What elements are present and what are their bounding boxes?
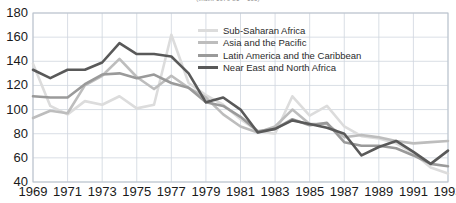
x-tick-1985: 1985 xyxy=(293,185,327,198)
x-tick-1981: 1981 xyxy=(224,185,258,198)
y-tick-60: 60 xyxy=(0,151,28,164)
legend-item[interactable]: Sub-Saharan Africa xyxy=(198,24,361,37)
legend-item[interactable]: Near East and North Africa xyxy=(198,62,361,75)
y-tick-160: 160 xyxy=(0,30,28,43)
x-tick-1975: 1975 xyxy=(120,185,154,198)
legend-swatch-icon xyxy=(198,41,218,44)
legend-label: Near East and North Africa xyxy=(223,63,336,73)
x-tick-1971: 1971 xyxy=(51,185,85,198)
x-tick-1993: 1993 xyxy=(431,185,456,198)
legend-label: Sub-Saharan Africa xyxy=(223,26,305,36)
x-tick-1977: 1977 xyxy=(154,185,188,198)
y-tick-140: 140 xyxy=(0,54,28,67)
chart-container: (Index 1979-81 = 100) 406080100120140160… xyxy=(0,0,456,203)
x-tick-1983: 1983 xyxy=(258,185,292,198)
legend-swatch-icon xyxy=(198,29,218,32)
x-tick-1989: 1989 xyxy=(362,185,396,198)
y-tick-80: 80 xyxy=(0,127,28,140)
y-tick-180: 180 xyxy=(0,6,28,19)
chart-legend: Sub-Saharan AfricaAsia and the PacificLa… xyxy=(198,24,361,74)
x-tick-1973: 1973 xyxy=(85,185,119,198)
legend-item[interactable]: Asia and the Pacific xyxy=(198,37,361,50)
legend-swatch-icon xyxy=(198,54,218,57)
x-tick-1987: 1987 xyxy=(327,185,361,198)
legend-label: Asia and the Pacific xyxy=(223,38,306,48)
legend-swatch-icon xyxy=(198,66,218,69)
x-tick-1979: 1979 xyxy=(189,185,223,198)
legend-label: Latin America and the Caribbean xyxy=(223,51,361,61)
y-tick-120: 120 xyxy=(0,78,28,91)
x-tick-1969: 1969 xyxy=(16,185,50,198)
y-tick-100: 100 xyxy=(0,103,28,116)
x-tick-1991: 1991 xyxy=(396,185,430,198)
legend-item[interactable]: Latin America and the Caribbean xyxy=(198,49,361,62)
